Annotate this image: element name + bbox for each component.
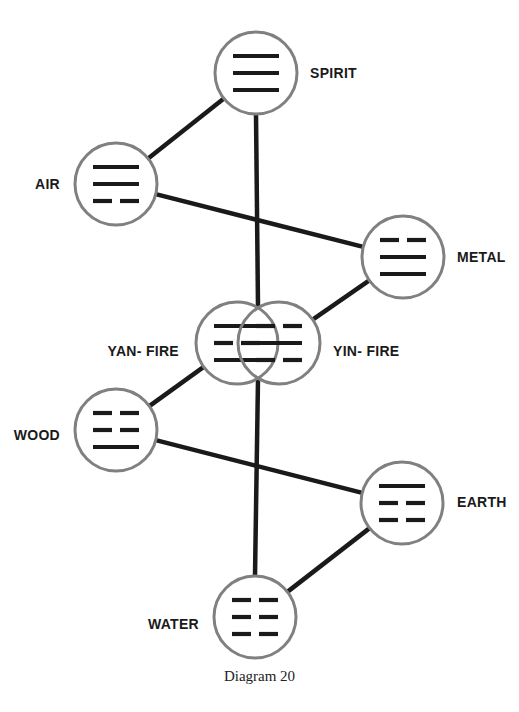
trigram-icon <box>93 167 139 201</box>
trigram-icon <box>379 486 425 520</box>
node-water: WATER <box>148 576 296 658</box>
node-label-spirit: SPIRIT <box>310 65 357 81</box>
node-circle <box>214 576 296 658</box>
node-label-water: WATER <box>148 616 199 632</box>
trigram-icon <box>233 56 279 90</box>
node-label-yang-fire: YAN- FIRE <box>108 343 179 359</box>
node-label-wood: WOOD <box>14 427 60 443</box>
node-wood: WOOD <box>14 389 157 471</box>
node-metal: METAL <box>362 216 506 298</box>
five-elements-diagram: SPIRITAIRMETALYAN- FIREYIN- FIREWOODEART… <box>0 0 519 712</box>
node-circle <box>75 389 157 471</box>
diagram-caption: Diagram 20 <box>0 668 519 685</box>
node-spirit: SPIRIT <box>215 32 357 114</box>
connector-spirit-air <box>148 98 224 158</box>
node-label-yin-fire: YIN- FIRE <box>333 343 399 359</box>
node-yang-fire: YAN- FIRE <box>108 302 278 384</box>
cut-off-text-strip <box>0 703 519 712</box>
trigram-icon <box>380 240 426 274</box>
trigram-icon <box>256 326 302 360</box>
node-label-metal: METAL <box>457 249 506 265</box>
connector-metal-yin-fire <box>313 280 370 319</box>
node-label-earth: EARTH <box>457 494 507 510</box>
node-label-air: AIR <box>35 176 60 192</box>
connector-yang-fire-wood <box>149 367 203 406</box>
trigram-icon <box>232 600 278 634</box>
connector-fire-center-water <box>255 379 258 576</box>
node-air: AIR <box>35 143 157 225</box>
connector-spirit-fire-center <box>256 114 258 307</box>
node-circle <box>361 462 443 544</box>
connector-earth-water <box>287 528 369 592</box>
trigram-icon <box>93 413 139 447</box>
element-nodes: SPIRITAIRMETALYAN- FIREYIN- FIREWOODEART… <box>14 32 507 658</box>
node-earth: EARTH <box>361 462 507 544</box>
